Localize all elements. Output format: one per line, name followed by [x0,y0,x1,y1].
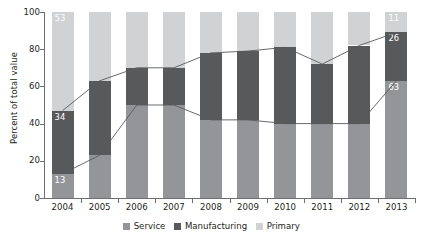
y-tick-label-60: 60 [18,82,40,91]
y-tick-mark-100 [40,12,44,13]
y-axis-tick-labels: 020406080100 [14,0,40,242]
y-tick-mark-20 [40,161,44,162]
connector-manufacturing-top-boundary [63,32,397,110]
x-axis-tick-labels: 2004200520062007200820092010201120122013 [44,203,415,217]
y-tick-label-0: 0 [18,194,40,203]
x-tick-label-2013: 2013 [376,203,416,212]
legend-label-manufacturing: Manufacturing [185,222,247,231]
x-tick-mark-2 [155,199,156,203]
y-tick-mark-60 [40,86,44,87]
x-tick-label-2009: 2009 [228,203,268,212]
legend-item-service[interactable]: Service [123,222,165,231]
x-tick-label-2006: 2006 [117,203,157,212]
y-tick-label-20: 20 [18,156,40,165]
x-tick-mark-6 [304,199,305,203]
stacked-bar-chart: Percent of total value 020406080100 1334… [0,0,423,242]
x-tick-mark-4 [230,199,231,203]
chart-legend: ServiceManufacturingPrimary [0,222,423,231]
legend-swatch-manufacturing [174,223,181,230]
y-tick-label-40: 40 [18,119,40,128]
legend-swatch-service [123,223,130,230]
legend-swatch-primary [256,223,263,230]
legend-label-primary: Primary [267,222,300,231]
legend-item-primary[interactable]: Primary [256,222,300,231]
y-tick-label-100: 100 [18,8,40,17]
x-tick-label-2008: 2008 [191,203,231,212]
x-tick-mark-0 [81,199,82,203]
x-tick-mark-7 [341,199,342,203]
y-tick-mark-0 [40,198,44,199]
x-tick-label-2012: 2012 [339,203,379,212]
y-tick-mark-40 [40,124,44,125]
stack-boundary-connector-lines [44,12,415,198]
x-tick-mark-8 [378,199,379,203]
x-tick-mark-1 [118,199,119,203]
x-tick-mark-9 [415,199,416,203]
y-tick-label-80: 80 [18,45,40,54]
y-tick-mark-80 [40,49,44,50]
x-tick-label-2010: 2010 [265,203,305,212]
legend-label-service: Service [134,222,166,231]
legend-item-manufacturing[interactable]: Manufacturing [174,222,247,231]
x-tick-label-2011: 2011 [302,203,342,212]
x-tick-mark-5 [267,199,268,203]
x-tick-label-2004: 2004 [43,203,83,212]
connector-service-top-boundary [63,81,397,174]
x-tick-mark-3 [192,199,193,203]
x-tick-label-2005: 2005 [80,203,120,212]
x-tick-label-2007: 2007 [154,203,194,212]
